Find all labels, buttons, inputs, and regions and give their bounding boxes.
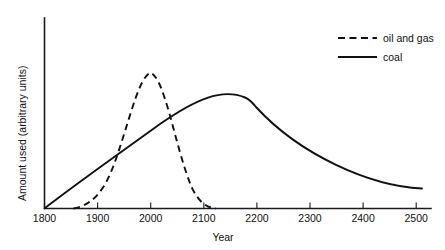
legend-label-coal: coal <box>383 51 402 63</box>
x-tick-label-2200: 2200 <box>245 212 268 224</box>
legend-label-oil-and-gas: oil and gas <box>383 32 434 44</box>
chart-plot-area <box>0 0 445 250</box>
x-tick-label-2000: 2000 <box>139 212 162 224</box>
x-tick-label-2300: 2300 <box>298 212 321 224</box>
x-tick-label-1800: 1800 <box>33 212 56 224</box>
y-axis-title: Amount used (arbitrary units) <box>16 66 28 201</box>
x-axis-ticks <box>45 203 417 209</box>
x-tick-label-1900: 1900 <box>86 212 109 224</box>
x-tick-label-2400: 2400 <box>351 212 374 224</box>
x-axis-title: Year <box>212 231 233 243</box>
x-tick-label-2500: 2500 <box>405 212 428 224</box>
energy-usage-chart: 1800 1900 2000 2100 2200 2300 2400 2500 … <box>0 0 445 250</box>
x-tick-label-2100: 2100 <box>192 212 215 224</box>
series-oil-and-gas-line <box>74 73 217 209</box>
